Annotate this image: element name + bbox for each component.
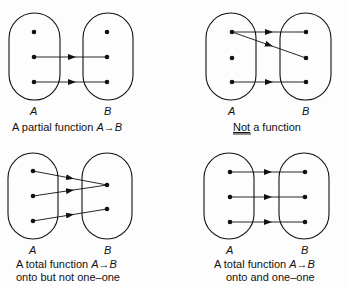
set-b-elements xyxy=(105,183,110,212)
set-b-label: B xyxy=(301,244,308,256)
mapping-arrows xyxy=(33,171,107,221)
mapping-arrows xyxy=(230,172,305,222)
set-a-label: A xyxy=(29,105,37,117)
caption: A partial function A→B xyxy=(12,121,122,133)
caption-line-2: onto but not one–one xyxy=(16,271,120,283)
mapping-arrows xyxy=(232,32,306,82)
set-b-label: B xyxy=(104,105,111,117)
caption-line-1: A total function A→B xyxy=(16,258,117,270)
diagram-canvas: A B A partial function A→B A B Not a fun… xyxy=(0,0,347,286)
caption-line-2: onto and one–one xyxy=(226,271,315,283)
caption-line-1: A total function A→B xyxy=(214,258,315,270)
panel-total-onto-one-one: A B A total function A→B onto and one–on… xyxy=(204,153,329,283)
set-a-label: A xyxy=(225,244,233,256)
set-a-elements xyxy=(230,30,235,85)
mapping-arrows xyxy=(34,57,107,82)
set-b-label: B xyxy=(104,244,111,256)
set-a-label: A xyxy=(227,105,235,117)
set-a-label: A xyxy=(28,244,36,256)
function-mapping-diagram: A B A partial function A→B A B Not a fun… xyxy=(0,0,347,286)
set-b-label: B xyxy=(302,105,309,117)
set-b-oval xyxy=(82,153,132,239)
panel-partial-function: A B A partial function A→B xyxy=(9,13,133,133)
panel-not-a-function: A B Not a function xyxy=(206,13,331,134)
caption: Not a function xyxy=(233,121,301,133)
panel-total-onto-not-one-one: A B A total function A→B onto but not on… xyxy=(8,153,132,283)
